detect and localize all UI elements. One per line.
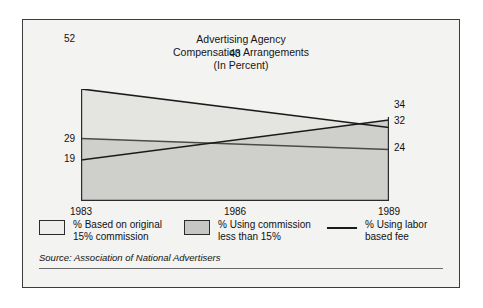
chart-figure: Advertising Agency Compensation Arrangem… [22, 19, 460, 288]
legend-item-low-commission: % Using commission less than 15% [184, 219, 311, 243]
y-axis-right-label-34: 34 [394, 99, 405, 110]
source-divider [39, 268, 443, 269]
legend-item-original-commission: % Based on original 15% commission [39, 219, 162, 243]
legend-label-line-1: % Using commission [218, 219, 311, 230]
legend-label-low-commission: % Using commission less than 15% [218, 219, 311, 243]
legend-label-labor-fee: % Using labor based fee [365, 219, 427, 243]
legend-label-line-2: based fee [365, 231, 409, 242]
legend-label-line-1: % Using labor [365, 219, 427, 230]
y-axis-label-29: 29 [49, 133, 75, 144]
x-axis-label-1989: 1989 [369, 206, 409, 217]
chart-title-line-1: Advertising Agency [23, 33, 459, 46]
legend-swatch-line-icon [327, 220, 357, 235]
legend-swatch-light-icon [39, 220, 65, 235]
legend-label-line-2: less than 15% [218, 231, 281, 242]
x-axis-label-1983: 1983 [61, 206, 101, 217]
y-axis-label-52: 52 [49, 33, 75, 44]
y-axis-right-label-32: 32 [394, 115, 405, 126]
legend-label-original-commission: % Based on original 15% commission [73, 219, 162, 243]
x-axis-label-1986: 1986 [215, 206, 255, 217]
source-note: Source: Association of National Advertis… [39, 252, 220, 263]
y-axis-label-19: 19 [49, 153, 75, 164]
chart-legend: % Based on original 15% commission % Usi… [39, 219, 445, 253]
data-label-upper: 43 [223, 48, 247, 59]
chart-title-line-3: (In Percent) [23, 59, 459, 72]
legend-swatch-mid-icon [184, 220, 210, 235]
y-axis-right-label-24: 24 [394, 142, 405, 153]
legend-item-labor-fee: % Using labor based fee [327, 219, 427, 243]
legend-label-line-1: % Based on original [73, 219, 162, 230]
legend-label-line-2: 15% commission [73, 231, 149, 242]
plot-area [81, 89, 389, 201]
chart-svg [81, 89, 389, 201]
